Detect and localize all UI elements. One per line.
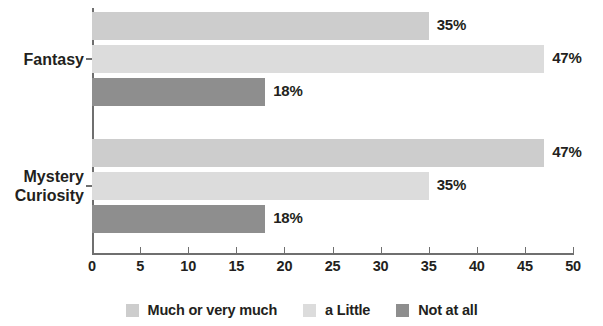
x-axis-tick-label: 10 — [180, 258, 196, 274]
bar — [92, 45, 544, 73]
category-label-mystery-curiosity: Mystery Curiosity — [15, 167, 84, 205]
bar — [92, 12, 429, 40]
bar-value-label: 18% — [273, 209, 302, 226]
legend-swatch-icon — [396, 304, 409, 317]
x-axis-tick-label: 15 — [228, 258, 244, 274]
x-axis-tick — [525, 247, 526, 254]
x-axis-tick — [429, 247, 430, 254]
x-axis-tick-label: 0 — [88, 258, 96, 274]
bar — [92, 172, 429, 200]
x-axis-tick — [140, 247, 141, 254]
legend-item: Much or very much — [126, 302, 278, 318]
bar — [92, 139, 544, 167]
x-axis-tick-label: 45 — [517, 258, 533, 274]
x-axis-tick-label: 35 — [421, 258, 437, 274]
bar-value-label: 35% — [437, 16, 466, 33]
bar — [92, 205, 265, 233]
legend-label: a Little — [325, 302, 370, 318]
bar-value-label: 35% — [437, 176, 466, 193]
legend-swatch-icon — [303, 304, 316, 317]
x-axis-tick — [477, 247, 478, 254]
legend-item: Not at all — [396, 302, 477, 318]
x-axis-tick — [236, 247, 237, 254]
x-axis-tick — [284, 247, 285, 254]
x-axis-tick-label: 30 — [373, 258, 389, 274]
legend-item: a Little — [303, 302, 370, 318]
x-axis-tick-label: 20 — [277, 258, 293, 274]
chart-legend: Much or very mucha LittleNot at all — [0, 298, 603, 322]
x-axis-tick-label: 50 — [565, 258, 581, 274]
x-axis-tick-label: 25 — [325, 258, 341, 274]
bar-value-label: 18% — [273, 82, 302, 99]
bar-value-label: 47% — [552, 143, 581, 160]
legend-label: Not at all — [418, 302, 477, 318]
x-axis-tick — [573, 247, 574, 254]
x-axis-tick — [381, 247, 382, 254]
x-axis-tick-label: 5 — [136, 258, 144, 274]
legend-label: Much or very much — [148, 302, 278, 318]
x-axis-tick — [92, 247, 93, 254]
bar-chart: Fantasy Mystery Curiosity 35%47%18%47%35… — [0, 0, 603, 326]
x-axis-tick-label: 40 — [469, 258, 485, 274]
x-axis-tick — [333, 247, 334, 254]
plot-area: 35%47%18%47%35%18% — [92, 8, 573, 253]
category-label-fantasy: Fantasy — [24, 50, 84, 69]
bar — [92, 78, 265, 106]
legend-swatch-icon — [126, 304, 139, 317]
bar-value-label: 47% — [552, 49, 581, 66]
x-axis-tick — [188, 247, 189, 254]
